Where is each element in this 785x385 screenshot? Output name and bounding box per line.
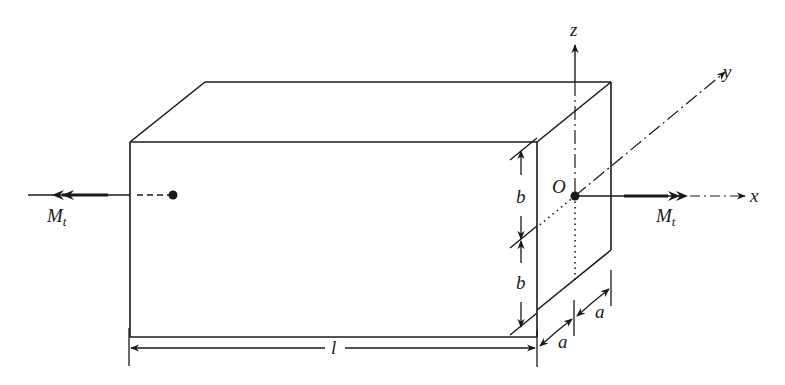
origin-label: O [552, 176, 566, 197]
torsion-bar-diagram: Mt Mt O x y z b b a a l [0, 0, 785, 385]
left-centroid-point [169, 191, 178, 200]
moment-left-label: Mt [46, 205, 67, 229]
bar-front-face [130, 142, 537, 337]
a-back-label: a [595, 301, 605, 322]
x-axis-label: x [749, 185, 759, 206]
b-dimension [510, 138, 537, 335]
b-bottom-label: b [516, 272, 526, 293]
z-axis-label: z [569, 19, 578, 40]
moment-right-label: Mt [655, 205, 676, 229]
moment-arrow-left [28, 190, 130, 200]
a-front-label: a [558, 331, 568, 352]
length-label: l [331, 337, 336, 358]
y-axis [537, 72, 725, 227]
b-top-label: b [516, 186, 526, 207]
origin-point [571, 192, 580, 201]
y-axis-label: y [721, 61, 732, 82]
bar-top-face [130, 82, 611, 142]
x-axis [575, 191, 745, 201]
